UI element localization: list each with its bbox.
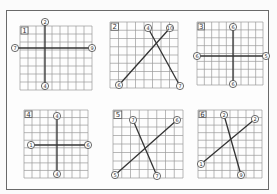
endpoint-label: 9 (239, 172, 242, 178)
panel-5: 55677 (111, 110, 183, 180)
endpoint-label: 4 (146, 25, 149, 31)
grid (110, 22, 178, 88)
segment (224, 115, 241, 175)
segment (133, 120, 157, 176)
panel-number: 2 (113, 23, 117, 31)
endpoint-label: 6 (195, 53, 198, 59)
diagram-canvas: 1247926104736665444165567761229 (0, 0, 277, 194)
grid (197, 22, 263, 85)
endpoint-label: 2 (43, 19, 46, 25)
panel-number: 4 (26, 111, 31, 119)
panel-number: 3 (199, 23, 203, 31)
panel-number: 1 (22, 27, 26, 35)
panel-1: 12479 (11, 18, 95, 90)
panel-6: 61229 (197, 110, 262, 179)
endpoint-label: 1 (199, 161, 202, 167)
endpoint-label: 4 (55, 171, 58, 177)
panel-number: 6 (200, 111, 205, 119)
endpoint-label: 2 (222, 112, 225, 118)
endpoint-label: 1 (29, 142, 32, 148)
endpoint-label: 6 (231, 81, 234, 87)
endpoint-label: 6 (231, 24, 234, 30)
endpoint-label: 6 (86, 142, 89, 148)
endpoint-label: 10 (167, 25, 173, 31)
segment (201, 119, 255, 164)
segment (115, 120, 177, 175)
panel-3: 36665 (193, 22, 269, 88)
endpoint-label: 5 (113, 172, 116, 178)
endpoint-label: 7 (131, 117, 134, 123)
endpoint-label: 7 (178, 83, 181, 89)
panel-number: 5 (116, 111, 120, 119)
endpoint-label: 6 (117, 82, 120, 88)
endpoint-label: 2 (253, 116, 256, 122)
endpoint-label: 4 (55, 113, 58, 119)
panel-2: 261047 (110, 22, 184, 90)
grid (20, 26, 92, 90)
endpoint-label: 7 (155, 173, 158, 179)
endpoint-label: 7 (13, 45, 16, 51)
panel-4: 44416 (24, 110, 92, 178)
endpoint-label: 6 (175, 117, 178, 123)
endpoint-label: 5 (264, 53, 267, 59)
endpoint-label: 4 (43, 83, 46, 89)
endpoint-label: 9 (90, 45, 93, 51)
